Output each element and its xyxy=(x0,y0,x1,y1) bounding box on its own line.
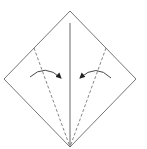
origami-diagram xyxy=(0,0,147,149)
